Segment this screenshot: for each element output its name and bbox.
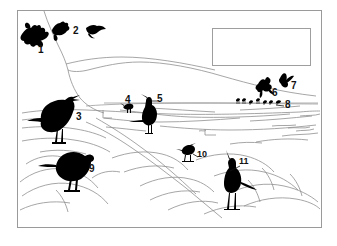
label-5: 5 bbox=[157, 94, 163, 104]
label-7: 7 bbox=[291, 81, 297, 91]
bird-flock-8 bbox=[236, 98, 281, 105]
bird-silhouette-3 bbox=[27, 95, 80, 144]
leader-lines bbox=[151, 101, 284, 171]
label-3: 3 bbox=[76, 112, 82, 122]
bird-silhouette-1 bbox=[21, 23, 49, 47]
label-11: 11 bbox=[239, 157, 249, 166]
label-8: 8 bbox=[285, 100, 291, 110]
label-2: 2 bbox=[73, 26, 79, 36]
legend-box bbox=[212, 28, 311, 66]
label-9: 9 bbox=[89, 164, 95, 174]
label-6: 6 bbox=[272, 88, 278, 98]
bird-silhouette-2a bbox=[52, 22, 69, 42]
bird-silhouette-9 bbox=[38, 152, 94, 192]
label-4: 4 bbox=[125, 95, 131, 105]
bird-silhouette-5 bbox=[129, 94, 157, 134]
leader-8 bbox=[276, 105, 284, 106]
illustration-plate: 1 2 3 4 5 6 7 8 9 10 11 bbox=[0, 0, 337, 246]
label-1: 1 bbox=[38, 45, 44, 55]
label-10: 10 bbox=[197, 150, 207, 159]
bird-silhouette-2 bbox=[86, 25, 106, 38]
bird-silhouette-10 bbox=[176, 143, 196, 162]
